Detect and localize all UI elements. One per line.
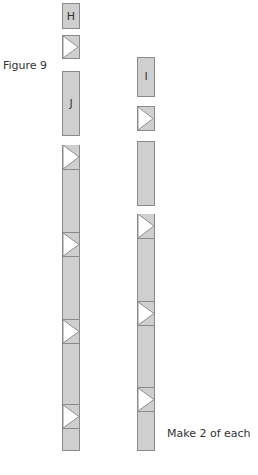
triangle-icon [138,107,154,130]
figure-title: Figure 9 [3,59,47,72]
strip-triangle [63,232,79,257]
piece-i: I [137,57,155,97]
strip-triangle [138,387,154,412]
triangle-icon [138,214,154,238]
strip-triangle [63,145,79,170]
triangle-icon [138,302,154,325]
strip-triangle [138,214,154,239]
triangle-icon [63,36,79,58]
triangle-icon [63,405,79,428]
piece-j: J [62,71,80,136]
strip-triangle [138,301,154,326]
triangle-icon [63,233,79,256]
strip-triangle [63,404,79,429]
piece-h: H [62,3,80,29]
instruction-note: Make 2 of each [167,427,251,440]
piece-j-label: J [63,97,79,110]
triangle-icon [138,388,154,411]
long-strip-left [62,145,80,451]
triangle-icon [63,145,79,169]
triangle-block [62,35,80,59]
triangle-icon [63,320,79,343]
piece-i-label: I [138,70,154,83]
piece-h-label: H [63,10,79,23]
triangle-block [137,106,155,131]
strip-triangle [63,319,79,344]
plain-block [137,141,155,206]
long-strip-right [137,214,155,451]
